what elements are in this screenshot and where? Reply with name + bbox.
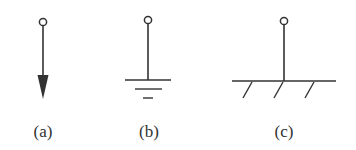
- symbol-diagram: (a) (b) (c): [0, 0, 356, 150]
- terminal-circle-icon: [144, 16, 151, 23]
- ground-icon: [125, 80, 171, 98]
- terminal-circle-icon: [39, 18, 46, 25]
- panel-b: [125, 16, 171, 98]
- fixed-support-hatch-icon: [232, 81, 336, 98]
- panel-a: [38, 18, 49, 99]
- panel-a-label: (a): [34, 122, 53, 141]
- panel-b-label: (b): [139, 122, 159, 141]
- panel-c-label: (c): [275, 122, 294, 141]
- terminal-circle-icon: [280, 17, 287, 24]
- arrow-down-icon: [38, 75, 49, 99]
- panel-c: [232, 17, 336, 98]
